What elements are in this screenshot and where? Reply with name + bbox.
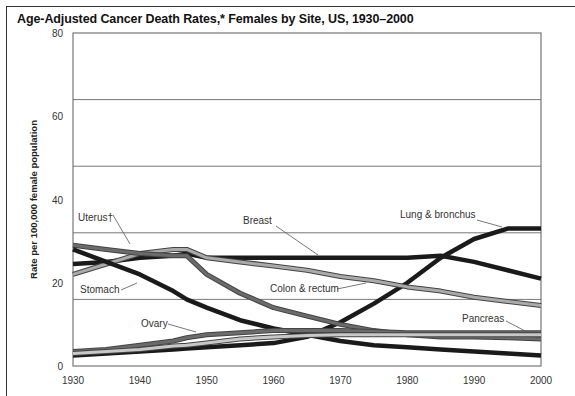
- annotation-uterus-leader: [113, 215, 130, 244]
- annotation-stomach: Stomach: [80, 284, 119, 295]
- x-tick-label: 2000: [530, 375, 553, 386]
- annotation-breast-leader: [276, 226, 318, 255]
- y-tick-label: 20: [52, 278, 64, 289]
- x-tick-label: 1960: [262, 375, 285, 386]
- annotation-ovary-leader: [168, 324, 196, 332]
- annotation-stomach-leader: [121, 283, 137, 290]
- annotation-lung-bronchus-leader: [477, 220, 502, 227]
- annotation-lung-bronchus: Lung & bronchus: [400, 209, 476, 220]
- x-tick-label: 1930: [62, 375, 85, 386]
- annotation-ovary: Ovary: [141, 318, 168, 329]
- annotation-breast: Breast: [243, 215, 272, 226]
- x-tick-label: 1970: [329, 375, 352, 386]
- x-tick-label: 1950: [196, 375, 219, 386]
- y-tick-label: 40: [52, 195, 64, 206]
- annotation-colon-rectum: Colon & rectum: [270, 283, 339, 294]
- annotation-colon-rectum-leader: [337, 283, 366, 289]
- y-axis-label: Rate per 100,000 female population: [28, 120, 39, 279]
- x-tick-label: 1980: [396, 375, 419, 386]
- annotation-uterus: Uterus†: [78, 212, 113, 223]
- y-tick-label: 80: [52, 28, 64, 39]
- y-tick-label: 60: [52, 111, 64, 122]
- annotation-pancreas: Pancreas: [462, 313, 504, 324]
- series-stomach: [73, 249, 541, 355]
- x-tick-label: 1940: [129, 375, 152, 386]
- y-tick-label: 0: [57, 361, 63, 372]
- x-tick-label: 1990: [463, 375, 486, 386]
